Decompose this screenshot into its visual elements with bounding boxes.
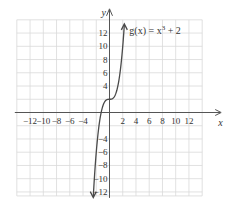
x-tick-label: −10 xyxy=(36,116,51,126)
y-tick-label: 4 xyxy=(103,81,108,91)
y-tick-label: −10 xyxy=(93,174,108,184)
x-axis-label: x xyxy=(217,117,223,128)
curve-layer xyxy=(90,24,127,198)
x-tick-label: 6 xyxy=(147,116,152,126)
x-tick-label: 8 xyxy=(160,116,165,126)
y-tick-label: 6 xyxy=(103,68,108,78)
x-tick-label: −4 xyxy=(78,116,88,126)
x-tick-label: −12 xyxy=(23,116,37,126)
y-axis-label: y xyxy=(101,7,107,18)
x-tick-label: −6 xyxy=(65,116,75,126)
y-tick-label: 10 xyxy=(99,41,109,51)
function-label-prefix: g(x) = x xyxy=(129,25,161,37)
y-tick-label: 8 xyxy=(103,55,108,65)
y-tick-label: −4 xyxy=(98,134,108,144)
x-tick-label: 2 xyxy=(120,116,125,126)
x-tick-label: 4 xyxy=(134,116,139,126)
function-label: g(x) = x3 + 2 xyxy=(129,24,180,37)
axes xyxy=(15,9,221,198)
y-tick-label: 12 xyxy=(99,28,108,38)
function-graph: −12−10−8−6−4246810121210864−4−6−8−10−12 … xyxy=(0,0,231,205)
function-label-suffix: + 2 xyxy=(165,25,181,36)
y-tick-label: −12 xyxy=(93,187,107,197)
x-tick-label: 10 xyxy=(171,116,181,126)
x-tick-label: 12 xyxy=(184,116,193,126)
y-tick-label: −6 xyxy=(98,147,108,157)
x-tick-label: −8 xyxy=(52,116,62,126)
y-tick-label: −8 xyxy=(98,160,108,170)
